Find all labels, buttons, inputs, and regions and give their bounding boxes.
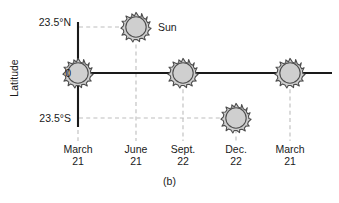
xtick-line1: March	[250, 143, 330, 155]
sun-body-june-21	[126, 17, 146, 37]
xtick-line2: 21	[250, 155, 330, 167]
ytick-label-north: 23.5°N	[16, 16, 71, 28]
figure-caption: (b)	[0, 175, 339, 187]
sun-body-sept-22	[173, 63, 193, 83]
sun-body-march-21-end	[280, 63, 300, 83]
ytick-label-south: 23.5°S	[16, 112, 71, 124]
sun-callout-label: Sun	[158, 21, 177, 33]
sun-body-dec-22	[226, 108, 246, 128]
solar-declination-figure: 23.5°N 0 23.5°S Latitude Sun March 21 Ju…	[0, 0, 339, 203]
xtick-label-march-21-end: March 21	[250, 143, 330, 168]
ytick-label-equator: 0	[16, 67, 71, 79]
y-axis-title: Latitude	[8, 48, 20, 108]
